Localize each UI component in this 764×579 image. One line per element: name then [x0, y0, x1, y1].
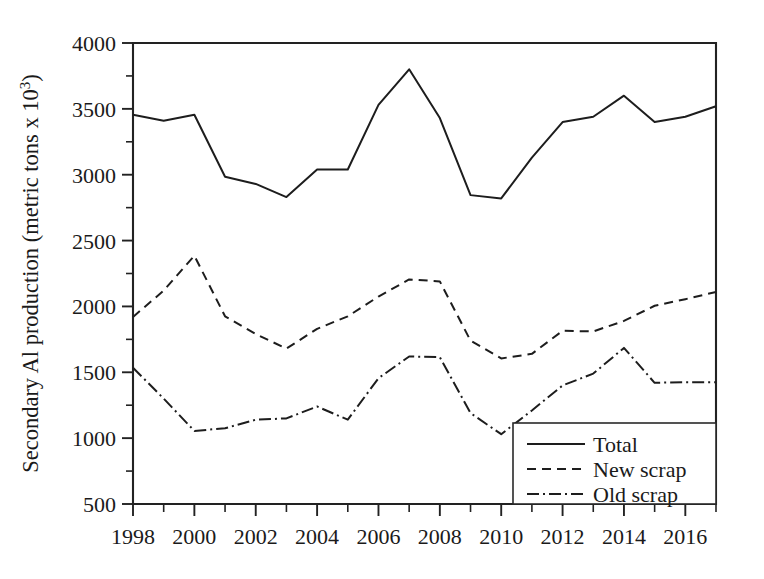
x-axis-tick-labels: 1998200020022004200620082010201220142016	[111, 524, 707, 549]
x-tick-label: 2014	[602, 524, 646, 549]
legend-label: New scrap	[593, 457, 686, 482]
y-axis-tick-labels: 5001000150020002500300035004000	[72, 31, 116, 517]
y-tick-label: 1500	[72, 360, 116, 385]
y-tick-label: 500	[83, 492, 116, 517]
x-tick-label: 2016	[663, 524, 707, 549]
chart-legend: TotalNew scrapOld scrap	[513, 423, 716, 507]
y-axis-ticks	[122, 43, 133, 504]
x-tick-label: 2000	[172, 524, 216, 549]
data-series-group	[133, 69, 716, 434]
series-new-scrap	[133, 256, 716, 359]
y-tick-label: 1000	[72, 426, 116, 451]
x-tick-label: 2006	[356, 524, 400, 549]
legend-label: Total	[593, 432, 638, 457]
series-old-scrap	[133, 348, 716, 434]
x-tick-label: 2004	[295, 524, 339, 549]
x-tick-label: 2012	[541, 524, 585, 549]
legend-label: Old scrap	[593, 482, 678, 507]
y-tick-label: 2500	[72, 229, 116, 254]
x-tick-label: 2010	[479, 524, 523, 549]
line-chart: 5001000150020002500300035004000 19982000…	[0, 0, 764, 579]
y-axis-label-text: Secondary Al production (metric tons x 1…	[17, 74, 43, 473]
chart-figure: 5001000150020002500300035004000 19982000…	[0, 0, 764, 579]
x-tick-label: 2008	[418, 524, 462, 549]
y-tick-label: 4000	[72, 31, 116, 56]
x-tick-label: 1998	[111, 524, 155, 549]
y-tick-label: 3500	[72, 97, 116, 122]
series-total	[133, 69, 716, 198]
y-tick-label: 3000	[72, 163, 116, 188]
y-tick-label: 2000	[72, 294, 116, 319]
y-axis-label: Secondary Al production (metric tons x 1…	[17, 74, 43, 473]
x-tick-label: 2002	[234, 524, 278, 549]
